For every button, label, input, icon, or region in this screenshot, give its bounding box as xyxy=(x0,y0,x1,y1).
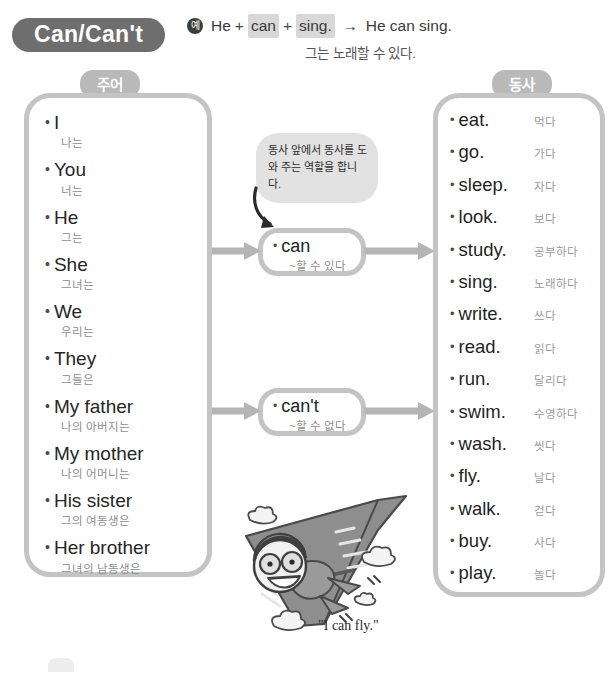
verb-korean: 먹다 xyxy=(534,113,556,129)
example-korean: 그는 노래할 수 있다. xyxy=(305,42,607,62)
verb-item: •read.읽다 xyxy=(450,336,594,368)
verb-korean: 공부하다 xyxy=(534,243,578,259)
subject-korean: 우리는 xyxy=(61,323,199,339)
verb-english: •look. xyxy=(450,206,534,228)
subject-item: •He그는 xyxy=(45,207,199,245)
verb-english: •walk. xyxy=(450,498,534,520)
verb-english-text: buy. xyxy=(459,530,493,551)
verb-english: •play. xyxy=(450,562,534,584)
verb-item: •walk.걷다 xyxy=(450,498,594,530)
verb-english-text: run. xyxy=(459,368,491,389)
subject-english-text: He xyxy=(54,207,78,228)
subject-english-text: Her brother xyxy=(54,537,150,558)
example-modal: can xyxy=(248,14,279,38)
verb-korean: 수영하다 xyxy=(534,405,578,421)
bullet-icon: • xyxy=(45,350,50,366)
verb-english: •read. xyxy=(450,336,534,358)
subject-english: •They xyxy=(45,348,199,369)
subject-korean: 그는 xyxy=(61,229,199,245)
verb-item: •study.공부하다 xyxy=(450,239,594,271)
modal-can-text: can xyxy=(281,236,310,256)
subject-english: •My father xyxy=(45,396,199,417)
page-header: Can/Can't 예 He + can + sing. → He can si… xyxy=(12,14,605,66)
verb-panel: •eat.먹다•go.가다•sleep.자다•look.보다•study.공부하… xyxy=(433,93,605,597)
subject-english: •His sister xyxy=(45,490,199,511)
arrow-can-to-verb xyxy=(364,238,436,264)
verb-english: •write. xyxy=(450,303,534,325)
verb-korean: 씻다 xyxy=(534,437,556,453)
verb-korean: 걷다 xyxy=(534,502,556,518)
verb-english: •sing. xyxy=(450,271,534,293)
verb-item: •sleep.자다 xyxy=(450,174,594,206)
subject-english: •You xyxy=(45,159,199,180)
modal-box-can: •can ~할 수 있다 xyxy=(258,228,366,276)
verb-item: •fly.날다 xyxy=(450,465,594,497)
subject-item: •My father나의 아버지는 xyxy=(45,396,199,434)
subject-english: •She xyxy=(45,254,199,275)
bullet-icon: • xyxy=(450,436,455,451)
modal-can-label: •can xyxy=(273,237,361,256)
bullet-icon: • xyxy=(450,306,455,321)
bullet-icon: • xyxy=(450,112,455,127)
verb-korean: 가다 xyxy=(534,145,556,161)
verb-korean: 놀다 xyxy=(534,566,556,582)
subject-english-text: My father xyxy=(54,396,133,417)
modal-cant-label: •can't xyxy=(273,397,361,416)
verb-english-text: fly. xyxy=(459,465,481,486)
bullet-icon: • xyxy=(450,501,455,516)
verb-korean: 날다 xyxy=(534,469,556,485)
subject-english: •Her brother xyxy=(45,537,199,558)
bullet-icon: • xyxy=(45,114,50,130)
example-formula: 예 He + can + sing. → He can sing. xyxy=(187,14,607,38)
modal-can-korean: ~할 수 있다 xyxy=(289,257,361,273)
verb-english-text: read. xyxy=(459,336,501,357)
subject-korean: 나는 xyxy=(61,134,199,150)
verb-korean: 노래하다 xyxy=(534,275,578,291)
verb-english-text: eat. xyxy=(459,109,490,130)
subject-english-text: She xyxy=(54,254,88,275)
bullet-icon: • xyxy=(450,404,455,419)
subject-item: •We우리는 xyxy=(45,301,199,339)
verb-korean: 사다 xyxy=(534,534,556,550)
verb-korean: 자다 xyxy=(534,178,556,194)
bullet-icon: • xyxy=(273,399,277,413)
verb-english-text: sleep. xyxy=(459,174,508,195)
example-verb: sing. xyxy=(296,14,335,38)
bullet-icon: • xyxy=(450,533,455,548)
verb-item: •eat.먹다 xyxy=(450,109,594,141)
example-block: 예 He + can + sing. → He can sing. 그는 노래할… xyxy=(187,14,607,62)
subject-english-text: My mother xyxy=(54,443,144,464)
bullet-icon: • xyxy=(450,144,455,159)
page-title: Can/Can't xyxy=(12,18,165,52)
subject-english: •He xyxy=(45,207,199,228)
verb-korean: 쓰다 xyxy=(534,307,556,323)
verb-item: •sing.노래하다 xyxy=(450,271,594,303)
verb-korean: 보다 xyxy=(534,210,556,226)
subject-item: •My mother나의 어머니는 xyxy=(45,443,199,481)
arrow-subject-to-can xyxy=(212,238,262,264)
arrow-cant-to-verb xyxy=(364,398,436,424)
subject-english-text: You xyxy=(54,159,86,180)
verb-item: •buy.사다 xyxy=(450,530,594,562)
verb-english-text: sing. xyxy=(459,271,498,292)
subject-korean: 그들은 xyxy=(61,371,199,387)
verb-english: •swim. xyxy=(450,401,534,423)
bubble-tail-arrow-icon xyxy=(250,186,294,234)
verb-english: •go. xyxy=(450,141,534,163)
verb-item: •run.달리다 xyxy=(450,368,594,400)
verb-english-text: walk. xyxy=(459,498,501,519)
bullet-icon: • xyxy=(450,209,455,224)
illustration-caption: "I can fly." xyxy=(318,618,379,634)
example-result: He can sing. xyxy=(366,15,452,37)
modal-box-cant: •can't ~할 수 없다 xyxy=(258,388,366,436)
subject-item: •His sister그의 여동생은 xyxy=(45,490,199,528)
bullet-icon: • xyxy=(45,398,50,414)
subject-item: •Her brother그녀의 남동생은 xyxy=(45,537,199,575)
verb-english-text: study. xyxy=(459,239,507,260)
bullet-icon: • xyxy=(45,161,50,177)
verb-english: •sleep. xyxy=(450,174,534,196)
subject-english-text: His sister xyxy=(54,490,132,511)
subject-list: •I나는•You너는•He그는•She그녀는•We우리는•They그들은•My … xyxy=(45,112,199,585)
bullet-icon: • xyxy=(273,239,277,253)
bullet-icon: • xyxy=(45,256,50,272)
